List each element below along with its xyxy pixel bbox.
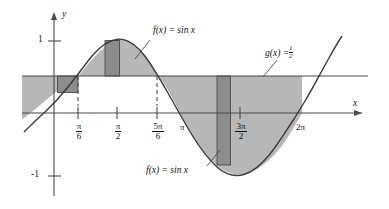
leader-line-g: [263, 60, 277, 77]
function-label-f-top-text: f(x) = sin: [153, 25, 188, 35]
one-half-denominator: 2: [289, 53, 293, 60]
function-label-f-top-var: x: [191, 25, 195, 35]
pi-over-6-fraction: π 6: [76, 122, 83, 141]
y-axis-label: y: [62, 10, 66, 20]
x-axis-arrowhead: [354, 110, 362, 116]
sine-area-figure: y x 1 -1 f(x) = sin x g(x) =12 f(x) = si…: [0, 0, 389, 209]
x-axis-label: x: [353, 99, 357, 109]
three-pi-over-2-denominator: 2: [235, 132, 246, 141]
function-label-g-text: g(x) =: [265, 48, 289, 58]
function-label-f-bottom-var: x: [184, 165, 188, 175]
three-pi-over-2-fraction: 3π 2: [235, 122, 246, 141]
pi-over-2-fraction: π 2: [115, 122, 122, 141]
tick-label-pi: π: [180, 123, 185, 132]
five-pi-over-6-denominator: 6: [152, 132, 163, 141]
function-label-f-top: f(x) = sin x: [153, 26, 195, 36]
function-label-f-bottom: f(x) = sin x: [146, 166, 188, 176]
pi-over-6-denominator: 6: [76, 132, 83, 141]
five-pi-over-6-fraction: 5π 6: [152, 122, 163, 141]
y-tick-label-one: 1: [38, 35, 43, 45]
representative-rectangle-upper: [105, 41, 120, 77]
tick-label-pi-over-2: π 2: [110, 122, 126, 141]
tick-label-three-pi-over-2: 3π 2: [230, 122, 252, 141]
y-axis-arrowhead: [51, 12, 57, 20]
tick-label-two-pi: 2π: [296, 123, 305, 132]
function-label-f-bottom-text: f(x) = sin: [146, 165, 181, 175]
function-label-g: g(x) =12: [265, 45, 293, 60]
pi-over-2-denominator: 2: [115, 132, 122, 141]
y-tick-label-minus-one: -1: [31, 170, 39, 180]
tick-label-five-pi-over-6: 5π 6: [147, 122, 169, 141]
one-half-fraction: 12: [289, 45, 293, 60]
tick-label-pi-over-6: π 6: [71, 122, 87, 141]
